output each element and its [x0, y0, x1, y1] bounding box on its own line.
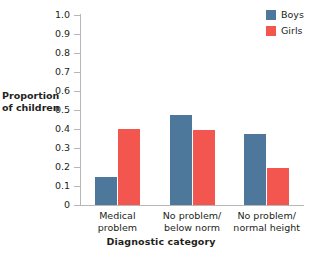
bar-chart: 1.00.90.80.70.60.50.40.30.20.10 Medicalp… [0, 0, 322, 254]
bar-girls-1 [193, 130, 215, 205]
category-label-line: normal height [229, 222, 304, 234]
bar-boys-0 [95, 177, 117, 205]
y-axis-line [80, 14, 81, 206]
legend-label-girls: Girls [281, 25, 303, 36]
y-tick-label: 0 [46, 200, 70, 210]
bar-girls-2 [267, 168, 289, 205]
y-tick-mark [74, 205, 80, 206]
category-label: Medicalproblem [80, 210, 155, 233]
category-label: No problem/below norm [155, 210, 230, 233]
bar-boys-2 [244, 134, 266, 205]
y-axis-title-line-1: Proportion [2, 90, 74, 102]
y-tick-label: 0.9 [46, 29, 70, 39]
category-label: No problem/normal height [229, 210, 304, 233]
legend-label-boys: Boys [281, 9, 304, 20]
y-tick-mark [74, 167, 80, 168]
y-tick-mark [74, 110, 80, 111]
category-label-line: below norm [155, 222, 230, 234]
y-tick-label: 0.3 [46, 143, 70, 153]
x-axis-title: Diagnostic category [0, 236, 322, 247]
legend-item-boys: Boys [266, 9, 304, 20]
y-tick-label: 1.0 [46, 10, 70, 20]
legend-swatch-girls-icon [266, 26, 276, 36]
y-tick-mark [74, 72, 80, 73]
y-tick-mark [74, 34, 80, 35]
y-axis-title-line-2: of children [2, 102, 74, 114]
y-tick-label: 0.4 [46, 124, 70, 134]
category-label-line: problem [80, 222, 155, 234]
legend-item-girls: Girls [266, 25, 304, 36]
bar-girls-0 [118, 129, 140, 205]
x-axis-line [80, 205, 304, 206]
bar-boys-1 [170, 115, 192, 205]
category-label-line: No problem/ [155, 210, 230, 222]
y-tick-mark [74, 15, 80, 16]
y-tick-mark [74, 91, 80, 92]
y-tick-mark [74, 129, 80, 130]
y-tick-mark [74, 186, 80, 187]
chart-legend: Boys Girls [266, 9, 304, 41]
legend-swatch-boys-icon [266, 10, 276, 20]
y-tick-label: 0.2 [46, 162, 70, 172]
category-label-line: Medical [80, 210, 155, 222]
y-tick-mark [74, 53, 80, 54]
y-tick-label: 0.1 [46, 181, 70, 191]
category-label-line: No problem/ [229, 210, 304, 222]
y-axis-title: Proportion of children [2, 90, 74, 113]
y-tick-label: 0.8 [46, 48, 70, 58]
y-tick-mark [74, 148, 80, 149]
y-tick-label: 0.7 [46, 67, 70, 77]
